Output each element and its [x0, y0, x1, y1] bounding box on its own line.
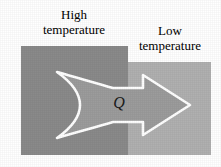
high-temperature-label: High temperature [24, 8, 124, 37]
low-temperature-label: Low temperature [122, 24, 218, 53]
high-temperature-label-line1: High [24, 8, 124, 23]
low-temperature-label-line2: temperature [122, 39, 218, 54]
high-temperature-label-line2: temperature [24, 23, 124, 38]
heat-quantity-symbol: Q [104, 94, 134, 112]
heat-transfer-figure: High temperature Low temperature Q [0, 0, 221, 167]
low-temperature-label-line1: Low [122, 24, 218, 39]
